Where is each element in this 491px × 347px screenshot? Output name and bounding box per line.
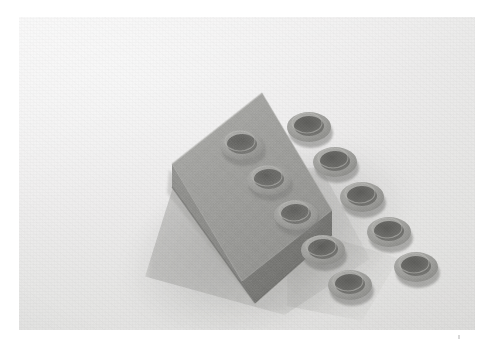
page-root: Gray toy construction brick with ten stu… [0,0,491,347]
photograph: Gray toy construction brick with ten stu… [19,17,475,330]
photo-vignette [19,17,475,330]
corner-speck [458,335,460,339]
